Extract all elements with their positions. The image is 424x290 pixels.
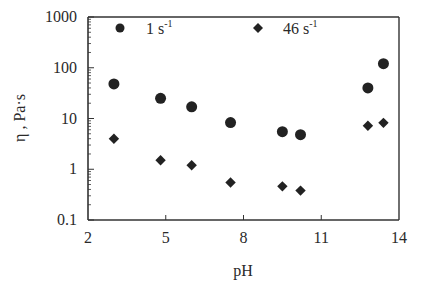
data-point-circle xyxy=(378,58,389,69)
data-point-circle xyxy=(225,117,236,128)
y-tick-label: 1000 xyxy=(45,8,77,25)
legend-marker-circle xyxy=(116,24,125,33)
legend-label-sup: -1 xyxy=(164,18,172,29)
data-point-diamond xyxy=(378,118,388,128)
y-tick-label: 100 xyxy=(53,59,77,76)
data-point-circle xyxy=(362,82,373,93)
data-point-circle xyxy=(108,78,119,89)
x-tick-label: 2 xyxy=(84,229,92,246)
data-point-circle xyxy=(295,129,306,140)
data-point-diamond xyxy=(277,181,287,191)
data-point-diamond xyxy=(186,160,196,170)
data-point-circle xyxy=(155,93,166,104)
series-diamond xyxy=(109,118,389,196)
data-point-diamond xyxy=(295,185,305,195)
legend: 1 s-1 46 s-1 xyxy=(116,18,318,37)
x-axis-title: pH xyxy=(233,262,253,280)
data-point-diamond xyxy=(225,177,235,187)
data-point-diamond xyxy=(155,155,165,165)
y-tick-label: 10 xyxy=(61,110,77,127)
legend-item-1-per-s: 1 s-1 xyxy=(116,18,173,37)
y-tick-label: 1 xyxy=(69,160,77,177)
legend-label-46-per-s: 46 s-1 xyxy=(283,18,318,37)
legend-label-sup: -1 xyxy=(309,18,317,29)
x-tick-label: 14 xyxy=(391,229,407,246)
data-points xyxy=(108,58,389,196)
axes xyxy=(88,17,399,220)
legend-label-1-per-s: 1 s-1 xyxy=(146,18,173,37)
ticks: 0.111010010002581114 xyxy=(45,8,407,246)
data-point-diamond xyxy=(109,133,119,143)
legend-item-46-per-s: 46 s-1 xyxy=(253,18,318,37)
scatter-chart: 0.111010010002581114 1 s-1 46 s-1 pH η ,… xyxy=(0,0,424,290)
series-circle xyxy=(108,58,389,140)
legend-label-main: 1 s xyxy=(146,20,164,37)
legend-marker-diamond xyxy=(253,23,263,33)
data-point-circle xyxy=(277,126,288,137)
x-tick-label: 5 xyxy=(162,229,170,246)
data-point-diamond xyxy=(363,121,373,131)
legend-label-main: 46 s xyxy=(283,20,309,37)
x-tick-label: 11 xyxy=(314,229,329,246)
x-tick-label: 8 xyxy=(240,229,248,246)
data-point-circle xyxy=(186,101,197,112)
y-tick-label: 0.1 xyxy=(57,211,77,228)
y-axis-title: η , Pa·s xyxy=(11,94,29,142)
